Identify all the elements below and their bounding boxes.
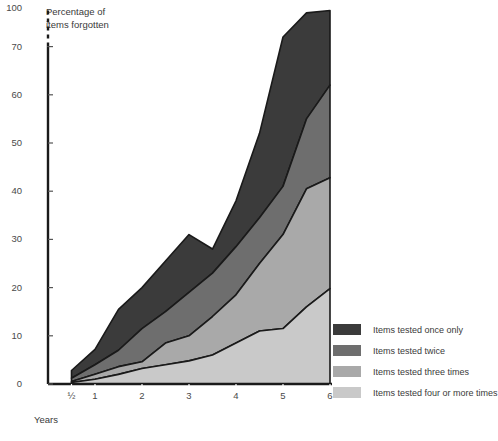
legend-swatch: [333, 387, 361, 398]
legend-label: Items tested four or more times: [373, 388, 498, 398]
chart-legend: Items tested once onlyItems tested twice…: [333, 320, 497, 404]
legend-label: Items tested three times: [373, 367, 469, 377]
legend-swatch: [333, 345, 361, 356]
legend-item[interactable]: Items tested three times: [333, 362, 497, 381]
legend-swatch: [333, 324, 361, 335]
legend-item[interactable]: Items tested twice: [333, 341, 497, 360]
legend-item[interactable]: Items tested once only: [333, 320, 497, 339]
legend-swatch: [333, 366, 361, 377]
legend-item[interactable]: Items tested four or more times: [333, 383, 497, 402]
legend-label: Items tested twice: [373, 346, 445, 356]
legend-label: Items tested once only: [373, 325, 463, 335]
